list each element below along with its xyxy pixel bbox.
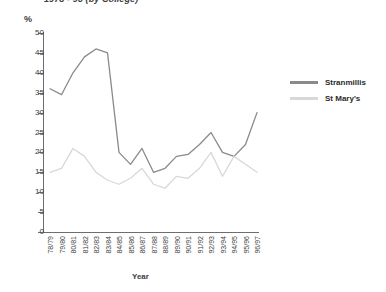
x-tick-label: 92/93: [208, 236, 215, 254]
x-tick-label: 83/84: [105, 236, 112, 254]
legend-swatch-icon: [290, 97, 318, 100]
x-tick-label: 87/88: [151, 236, 158, 254]
x-tick-label: 85/86: [128, 236, 135, 254]
x-tick-label: 86/87: [139, 236, 146, 254]
x-axis-ticks: 78/7979/8080/8181/8282/8383/8484/8585/86…: [0, 0, 386, 292]
legend-item[interactable]: Stranmillis: [290, 74, 384, 90]
x-tick-label: 79/80: [59, 236, 66, 254]
x-tick-label: 88/89: [162, 236, 169, 254]
x-tick-label: 78/79: [47, 236, 54, 254]
x-tick-label: 84/85: [116, 236, 123, 254]
chart-legend: StranmillisSt Mary's: [290, 74, 384, 106]
x-tick-label: 93/94: [220, 236, 227, 254]
x-axis-title: Year: [132, 272, 149, 281]
x-tick-label: 82/83: [93, 236, 100, 254]
x-tick-label: 81/82: [82, 236, 89, 254]
x-tick-label: 80/81: [70, 236, 77, 254]
x-tick-label: 90/91: [185, 236, 192, 254]
legend-label: St Mary's: [325, 94, 360, 103]
x-tick-label: 89/90: [174, 236, 181, 254]
x-tick-label: 94/95: [231, 236, 238, 254]
legend-item[interactable]: St Mary's: [290, 90, 384, 106]
legend-swatch-icon: [290, 81, 318, 84]
x-tick-label: 96/97: [254, 236, 261, 254]
chart-page: 1978 - 96 (by College) % 051015202530354…: [0, 0, 386, 292]
x-tick-label: 95/96: [243, 236, 250, 254]
x-tick-label: 91/92: [197, 236, 204, 254]
legend-label: Stranmillis: [325, 78, 366, 87]
